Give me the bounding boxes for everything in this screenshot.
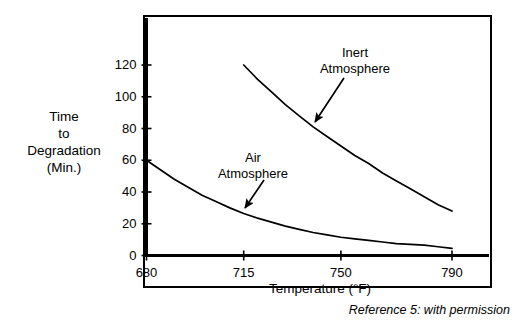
y-axis-title-line: Degradation <box>8 142 120 159</box>
y-tick-label: 20 <box>95 217 137 230</box>
x-tick-label: 790 <box>427 266 477 279</box>
y-tick-label: 40 <box>95 185 137 198</box>
x-axis-title: Temperature (°F) <box>200 281 440 296</box>
y-tick-label: 0 <box>95 249 137 262</box>
chart-figure: 020406080100120 680715750790 TimetoDegra… <box>0 0 516 325</box>
annotation-line: Atmosphere <box>203 166 303 182</box>
air-atmosphere-arrow <box>245 180 264 208</box>
x-tick-label: 750 <box>316 266 366 279</box>
annotation-line: Inert <box>300 45 410 61</box>
annotation-inert-atmosphere: InertAtmosphere <box>300 45 410 77</box>
y-axis-title-line: to <box>8 125 120 142</box>
y-tick-label: 120 <box>95 58 137 71</box>
y-axis-title-line: Time <box>8 108 120 125</box>
y-axis-title: TimetoDegradation(Min.) <box>8 108 120 176</box>
annotation-line: Atmosphere <box>300 61 410 77</box>
annotation-line: Air <box>203 150 303 166</box>
reference-caption: Reference 5: with permission <box>260 303 510 317</box>
inert-atmosphere-arrow <box>315 78 344 122</box>
annotation-air-atmosphere: AirAtmosphere <box>203 150 303 182</box>
y-tick-label: 100 <box>95 90 137 103</box>
series-line-inert-atmosphere <box>244 65 452 211</box>
x-tick-label: 715 <box>219 266 269 279</box>
x-tick-label: 680 <box>122 266 172 279</box>
y-axis-title-line: (Min.) <box>8 159 120 176</box>
annotation-arrows-group <box>245 78 344 208</box>
